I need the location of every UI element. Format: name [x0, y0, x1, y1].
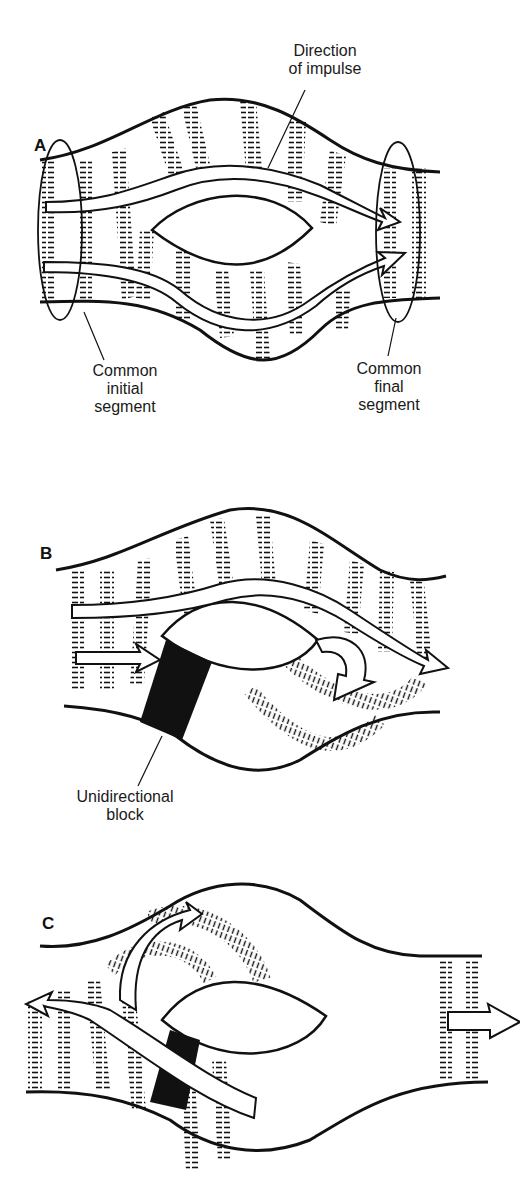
panel-label-a: A [34, 136, 46, 156]
panel-b-drawing [56, 508, 448, 786]
common-final-segment-label: Common final segment [334, 360, 444, 414]
initial-label-line-3: segment [70, 398, 180, 416]
panel-a-drawing [38, 90, 440, 362]
block-label-line-2: block [50, 806, 200, 824]
direction-label-line-2: of impulse [270, 60, 380, 78]
initial-label-line-2: initial [70, 380, 180, 398]
final-label-line-1: Common [334, 360, 444, 378]
common-initial-segment-label: Common initial segment [70, 362, 180, 416]
initial-label-line-1: Common [70, 362, 180, 380]
panel-label-b: B [40, 544, 52, 564]
panel-c-drawing [26, 884, 520, 1170]
unidirectional-block-label: Unidirectional block [50, 788, 200, 824]
direction-of-impulse-label: Direction of impulse [270, 42, 380, 78]
panel-label-c: C [42, 914, 54, 934]
block-label-line-1: Unidirectional [50, 788, 200, 806]
reentry-diagram [0, 0, 520, 1200]
final-label-line-3: segment [334, 396, 444, 414]
direction-label-line-1: Direction [270, 42, 380, 60]
final-label-line-2: final [334, 378, 444, 396]
